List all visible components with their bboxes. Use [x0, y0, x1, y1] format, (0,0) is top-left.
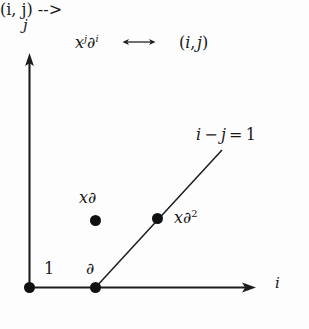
line-label-minus: − [204, 125, 217, 144]
point-label-identity: 1 [44, 261, 54, 277]
axis-label-i: i [275, 276, 280, 291]
lattice-point-identity [24, 282, 35, 293]
x-axis [29, 283, 256, 293]
line-equation-label: i − j = 1 [196, 127, 256, 143]
line-label-equals: = [229, 125, 242, 144]
lattice-diagram-figure: j i (i, j) --> xj∂i (i, j) i − j = 1 1 ∂… [0, 0, 309, 329]
line-label-j: j [221, 125, 226, 144]
point-label-partial: ∂ [86, 261, 94, 277]
formula-comma: , [190, 33, 195, 52]
line-label-value: 1 [246, 125, 256, 144]
y-axis [25, 53, 34, 288]
label-xd2-exponent: 2 [191, 208, 197, 219]
lattice-point-partial [90, 282, 101, 293]
formula-base-x: x [75, 33, 84, 52]
label-xd2-base: x [174, 208, 183, 227]
point-label-x-partial-squared: x∂2 [174, 210, 198, 226]
line-label-i: i [196, 125, 201, 144]
label-xd-base: x [79, 188, 88, 207]
axis-label-j: j [23, 18, 28, 33]
formula-paren-close: ) [202, 33, 208, 52]
point-label-x-partial: x∂ [79, 190, 96, 206]
formula-exponent-i: i [95, 33, 98, 44]
lattice-point-x-partial [90, 215, 101, 226]
double-headed-arrow-icon [122, 37, 156, 47]
correspondence-formula: xj∂i (i, j) [75, 35, 208, 51]
lattice-point-x-partial-squared [152, 213, 163, 224]
label-xd-operator: ∂ [88, 188, 96, 207]
